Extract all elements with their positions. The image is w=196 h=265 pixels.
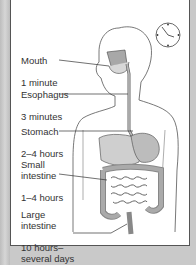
organ-name: Esophagus [21,89,69,100]
organ-name: Small intestine [21,159,63,181]
label-large-intestine: Large intestine 10 hours– several days [21,198,74,265]
diagram-panel: Mouth 1 minute Esophagus 3 minutes Stoma… [10,0,190,246]
clock-icon [156,23,180,47]
scan-edge [0,0,10,265]
organ-name: Mouth [21,55,57,66]
organ-name: Stomach [21,126,63,137]
organ-name: Large intestine [21,209,74,231]
transit-time: 10 hours– several days [21,242,74,264]
